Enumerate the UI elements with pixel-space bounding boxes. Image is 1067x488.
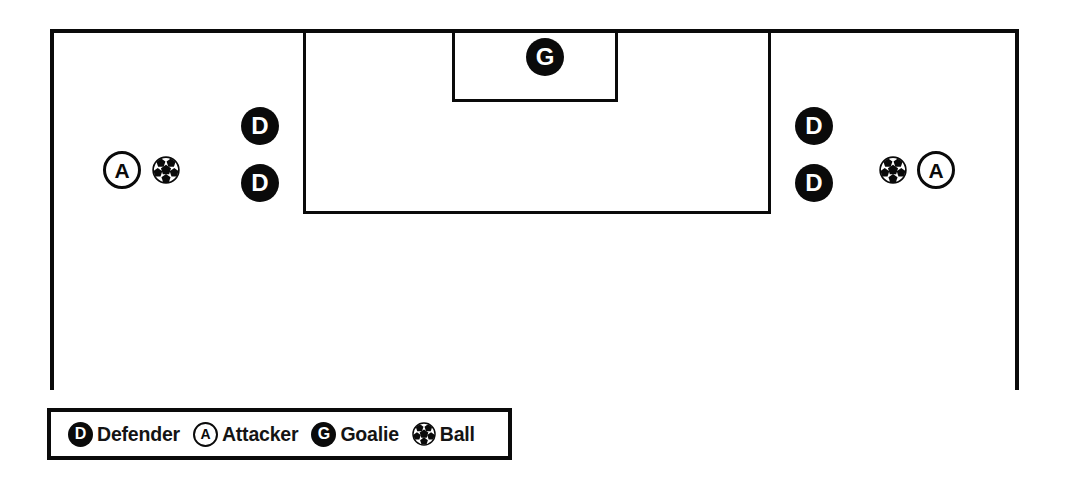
goal-line	[50, 29, 1019, 33]
penalty-area-right-line	[768, 31, 771, 214]
goal-area-left-line	[452, 31, 455, 102]
marker-defender-right-bottom[interactable]: D	[795, 164, 833, 202]
legend-label-defender: Defender	[97, 423, 180, 446]
goal-area-bottom-line	[452, 99, 618, 102]
legend-item-ball: Ball	[412, 422, 475, 446]
legend-label-attacker: Attacker	[222, 423, 298, 446]
legend-marker-defender: D	[68, 422, 93, 447]
marker-label: D	[251, 171, 268, 195]
marker-goalie-center[interactable]: G	[526, 38, 564, 76]
marker-label: D	[805, 171, 822, 195]
marker-label: D	[805, 114, 822, 138]
legend-item-goalie: G Goalie	[311, 422, 398, 447]
marker-attacker-left[interactable]: A	[103, 151, 141, 189]
legend-marker-goalie: G	[311, 422, 336, 447]
marker-label: A	[928, 159, 943, 180]
goal-area-right-line	[615, 31, 618, 102]
soccer-ball-icon[interactable]	[879, 156, 907, 184]
legend-marker-attacker: A	[193, 422, 218, 447]
legend: D Defender A Attacker G Goalie Ball	[47, 408, 512, 460]
marker-attacker-right[interactable]: A	[917, 151, 955, 189]
legend-item-attacker: A Attacker	[193, 422, 298, 447]
legend-label-goalie: Goalie	[340, 423, 398, 446]
legend-marker-symbol: A	[200, 427, 210, 441]
legend-marker-symbol: G	[318, 426, 330, 442]
legend-item-defender: D Defender	[68, 422, 180, 447]
touchline-right	[1015, 29, 1019, 390]
soccer-ball-icon	[412, 422, 436, 446]
marker-label: G	[536, 45, 555, 69]
marker-label: A	[114, 159, 129, 180]
legend-marker-symbol: D	[75, 426, 87, 442]
legend-label-ball: Ball	[440, 423, 475, 446]
marker-defender-right-top[interactable]: D	[795, 107, 833, 145]
touchline-left	[50, 29, 54, 390]
marker-defender-left-bottom[interactable]: D	[241, 164, 279, 202]
soccer-ball-icon[interactable]	[152, 156, 180, 184]
soccer-drill-diagram: G D D A D D A D Defender	[0, 0, 1067, 488]
penalty-area-bottom-line	[303, 211, 771, 214]
marker-label: D	[251, 114, 268, 138]
penalty-area-left-line	[303, 31, 306, 214]
marker-defender-left-top[interactable]: D	[241, 107, 279, 145]
